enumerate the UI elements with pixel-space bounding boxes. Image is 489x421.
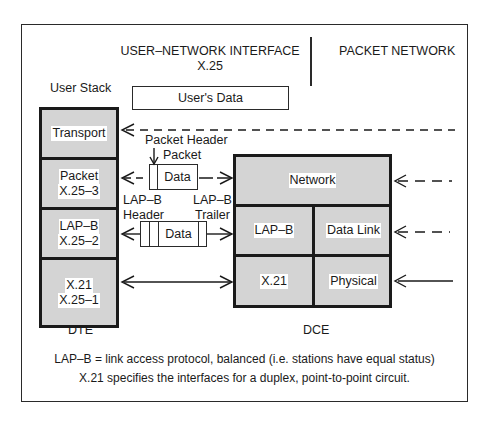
note-x21: X.21 specifies the interfaces for a dupl…: [21, 371, 468, 385]
note-lapb: LAP–B = link access protocol, balanced (…: [21, 352, 468, 366]
